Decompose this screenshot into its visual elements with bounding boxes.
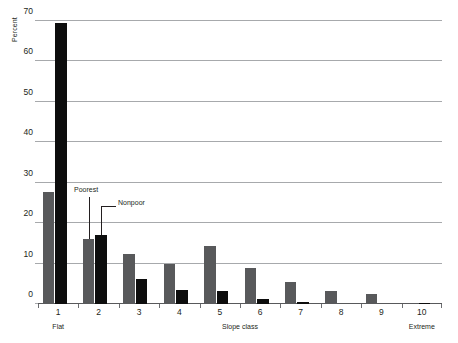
- x-tick-label-5: 5: [217, 307, 222, 317]
- x-axis-title: Slope class: [222, 323, 258, 330]
- x-axis-label-flat: Flat: [52, 323, 64, 330]
- y-tick-label: 30: [24, 168, 33, 178]
- annotation-label-poorest: Poorest: [74, 186, 98, 193]
- x-tick-label-8: 8: [339, 307, 344, 317]
- y-tick-label: 10: [24, 249, 33, 259]
- x-tick-label-9: 9: [379, 307, 384, 317]
- x-tick-label-7: 7: [298, 307, 303, 317]
- bar-nonpoor-class-3: [136, 279, 148, 304]
- bar-nonpoor-class-2: [95, 235, 107, 304]
- x-axis-subtitles: FlatSlope classExtreme: [38, 323, 442, 337]
- y-tick-label: 60: [24, 46, 33, 56]
- bar-poorest-class-3: [123, 254, 135, 304]
- bar-poorest-class-2: [83, 239, 95, 304]
- y-tick-label: 40: [24, 127, 33, 137]
- x-tick-label-4: 4: [177, 307, 182, 317]
- y-tick-label: 0: [28, 289, 33, 299]
- x-tick-label-3: 3: [137, 307, 142, 317]
- chart-figure: Percent 010203040506070 12345678910 Flat…: [0, 0, 458, 343]
- annotation-leader-nonpoor-vertical: [101, 206, 102, 235]
- x-tick-label-10: 10: [417, 307, 426, 317]
- bar-poorest-class-7: [285, 282, 297, 304]
- annotation-label-nonpoor: Nonpoor: [118, 199, 145, 206]
- y-axis-title: Percent: [11, 0, 18, 60]
- bar-nonpoor-class-1: [55, 23, 67, 304]
- bar-poorest-class-1: [43, 192, 55, 304]
- y-tick-label: 50: [24, 87, 33, 97]
- bar-poorest-class-9: [366, 294, 378, 304]
- x-tick-label-1: 1: [56, 307, 61, 317]
- annotation-leader-poorest: [89, 197, 90, 239]
- bar-series-container: [38, 21, 442, 304]
- x-tick-label-6: 6: [258, 307, 263, 317]
- bar-nonpoor-class-4: [176, 290, 188, 304]
- x-axis-tick-labels: 12345678910: [38, 307, 442, 321]
- bar-poorest-class-5: [204, 246, 216, 304]
- bar-poorest-class-4: [164, 264, 176, 304]
- x-axis-label-extreme: Extreme: [409, 323, 435, 330]
- y-tick-label: 70: [24, 6, 33, 16]
- bar-poorest-class-6: [245, 268, 257, 304]
- y-tick-label: 20: [24, 208, 33, 218]
- bar-poorest-class-8: [325, 291, 337, 304]
- x-tick-label-2: 2: [96, 307, 101, 317]
- plot-area: 010203040506070: [38, 21, 442, 304]
- bar-nonpoor-class-5: [217, 291, 229, 304]
- annotation-leader-nonpoor-horizontal: [101, 206, 116, 207]
